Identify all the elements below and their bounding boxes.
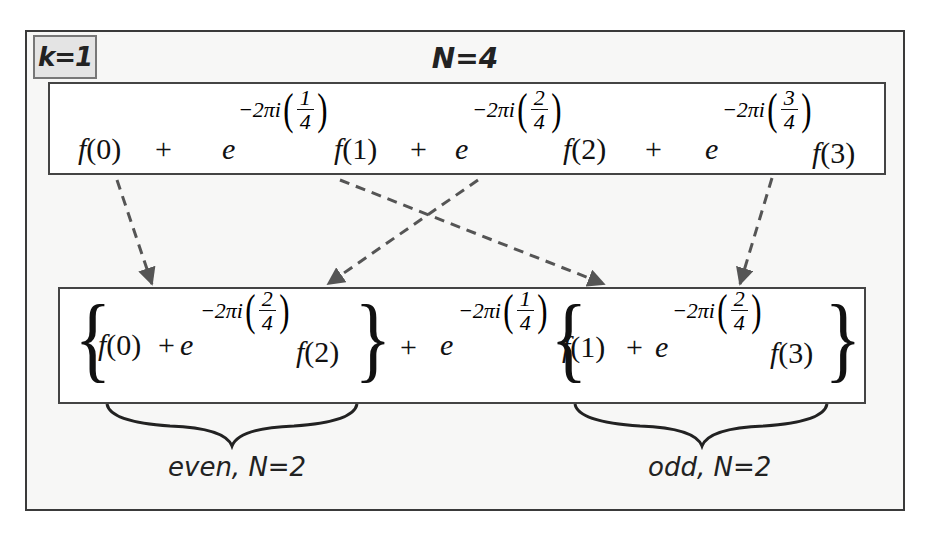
- arrow-f1-to-odd: [340, 180, 604, 284]
- arrow-f2-to-even: [328, 180, 478, 284]
- even-group-label: even, N=2: [168, 452, 306, 482]
- underbrace-odd: [575, 404, 827, 446]
- underbrace-even: [107, 404, 357, 446]
- odd-group-label: odd, N=2: [648, 452, 771, 482]
- arrow-f0-to-even: [117, 180, 152, 284]
- arrow-f3-to-odd: [740, 178, 772, 284]
- diagram-connectors: [0, 0, 930, 543]
